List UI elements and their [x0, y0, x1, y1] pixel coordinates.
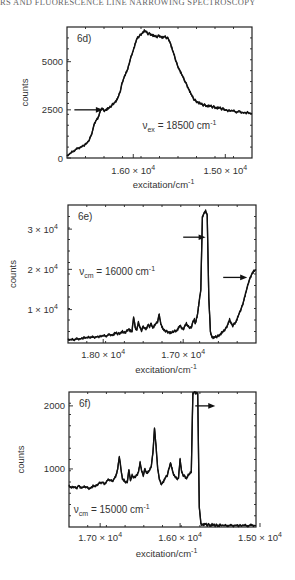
chart-panel-6e: 1.80 × 1041.70 × 1041 × 1042 × 1043 × 10… — [7, 205, 256, 375]
x-tick-label: 1.60 × 104 — [158, 531, 202, 543]
panel-label: 6d) — [77, 33, 91, 44]
x-tick-label: 1.60 × 104 — [111, 164, 155, 176]
y-tick-label: 2000 — [44, 400, 65, 411]
y-axis-title: counts — [19, 78, 30, 106]
panel-label: 6f) — [79, 398, 91, 409]
arrow-head-icon — [240, 275, 247, 281]
x-tick-label: 1.50 × 104 — [238, 531, 282, 543]
spectrum-noise-line — [67, 30, 251, 156]
excitation-annotation: νex = 18500 cm-1 — [142, 119, 216, 133]
chart-panel-6f: 1.70 × 1041.60 × 1041.50 × 10410002000ex… — [15, 392, 282, 559]
figure-6-charts: 1.60 × 1041.50 × 104025005000excitation/… — [0, 0, 295, 580]
y-axis-title: counts — [15, 445, 26, 473]
y-axis-title: counts — [7, 260, 18, 288]
x-tick-label: 1.50 × 104 — [203, 164, 247, 176]
y-tick-label: 2500 — [42, 104, 63, 115]
panel-label: 6e) — [78, 211, 92, 222]
y-tick-label: 5000 — [42, 56, 63, 67]
excitation-annotation: νcm = 15000 cm-1 — [74, 503, 150, 517]
arrow-head-icon — [208, 403, 215, 409]
spectrum-line — [67, 31, 252, 156]
x-tick-label: 1.70 × 104 — [78, 531, 122, 543]
chart-panel-6d: 1.60 × 1041.50 × 104025005000excitation/… — [19, 27, 252, 190]
x-axis-title: excitation/cm-1 — [136, 547, 198, 559]
excitation-annotation: νcm = 16000 cm-1 — [79, 265, 155, 279]
x-tick-label: 1.80 × 104 — [81, 348, 125, 360]
y-tick-label: 0 — [58, 153, 63, 164]
y-tick-label: 1000 — [44, 463, 65, 474]
x-axis-title: excitation/cm-1 — [135, 363, 197, 375]
y-tick-label: 3 × 104 — [27, 223, 58, 235]
x-tick-label: 1.70 × 104 — [161, 348, 205, 360]
y-tick-label: 1 × 104 — [27, 303, 58, 315]
y-tick-label: 2 × 104 — [27, 263, 58, 275]
minor-ticks — [67, 27, 252, 158]
x-axis-title: excitation/cm-1 — [133, 178, 195, 190]
plot-frame — [67, 27, 252, 158]
